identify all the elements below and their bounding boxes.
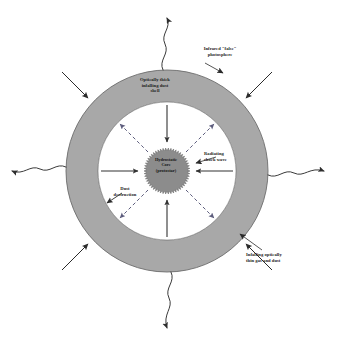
diagram-canvas: Optically thick infalling dust shell Inf… (0, 0, 339, 346)
photon-wave-east (268, 170, 324, 176)
external-arrow-ne (246, 72, 272, 98)
photon-wave-north (162, 18, 168, 70)
protostar-diagram (0, 0, 339, 346)
external-arrow-sw (62, 244, 88, 270)
photon-wave-west (12, 166, 66, 172)
external-arrow-nw (62, 72, 88, 98)
leader-infalling-gas (240, 234, 262, 250)
leader-photosphere (205, 63, 223, 73)
photon-wave-south (166, 272, 172, 328)
